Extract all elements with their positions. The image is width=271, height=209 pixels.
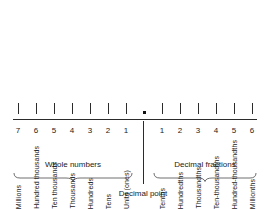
brace-decimal-fractions [153,172,257,182]
tick-mark-units-ones [126,103,127,114]
digit-position-1: 1 [119,126,133,136]
digit-position-2: 2 [101,126,115,136]
tick-mark-hundredths [180,103,181,114]
digit-decimal-5: 5 [227,126,241,136]
digit-decimal-1: 1 [155,126,169,136]
digit-position-3: 3 [83,126,97,136]
tick-mark-tenths [162,103,163,114]
digit-decimal-4: 4 [209,126,223,136]
tick-mark-hundreds [90,103,91,114]
place-label-text: Millionths [248,179,257,209]
place-value-chart: Millions Hundred thousands Ten thousands… [0,0,271,209]
tick-mark-hundred-thousands [36,103,37,114]
digit-decimal-6: 6 [245,126,259,136]
tick-mark-millions [18,103,19,114]
digit-position-4: 4 [65,126,79,136]
digit-decimal-3: 3 [191,126,205,136]
tick-mark-ten-thousands [54,103,55,114]
digit-position-5: 5 [47,126,61,136]
tick-mark-thousands [72,103,73,114]
digit-position-7: 7 [11,126,25,136]
place-label-text: Millions [14,185,23,209]
digit-decimal-2: 2 [173,126,187,136]
tick-mark-hundred-thousandths [234,103,235,114]
group-label-decimal-fractions: Decimal fractions [152,160,258,170]
brace-whole-numbers [13,172,133,182]
tick-mark-thousandths [198,103,199,114]
decimal-point-dot [143,111,146,114]
axis-rule [13,119,257,120]
decimal-point-divider [143,121,144,184]
tick-mark-ten-thousandths [216,103,217,114]
tick-mark-millionths [252,103,253,114]
tick-mark-tens [108,103,109,114]
decimal-point-caption: Decimal point [93,189,193,199]
digit-position-6: 6 [29,126,43,136]
group-label-whole-numbers: Whole numbers [14,160,132,170]
